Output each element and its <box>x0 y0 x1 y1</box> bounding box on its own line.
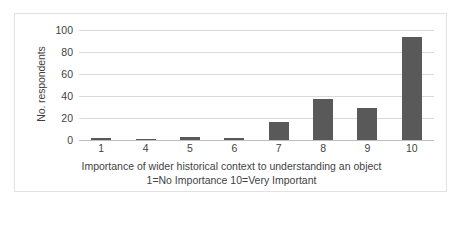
bar-group <box>79 30 434 140</box>
x-axis-title-line1: Importance of wider historical context t… <box>81 160 381 172</box>
bar-slot <box>390 30 434 140</box>
bar[interactable] <box>313 99 333 140</box>
plot-area: 100 80 60 40 20 0 <box>79 30 434 140</box>
bar[interactable] <box>402 37 422 140</box>
figure-container: No. respondents 100 80 60 40 20 0 <box>0 0 461 226</box>
bar-slot <box>168 30 212 140</box>
bar[interactable] <box>357 108 377 140</box>
x-tick-label: 8 <box>301 142 345 154</box>
bar-slot <box>257 30 301 140</box>
bar-slot <box>301 30 345 140</box>
figure-caption <box>0 207 461 215</box>
bar-slot <box>79 30 123 140</box>
x-tick-label: 7 <box>257 142 301 154</box>
x-tick-label: 9 <box>345 142 389 154</box>
x-axis-title: Importance of wider historical context t… <box>33 160 430 187</box>
axis-baseline <box>79 140 434 141</box>
y-tick-label-100: 100 <box>55 25 73 36</box>
bar-slot <box>123 30 167 140</box>
y-tick-label-0: 0 <box>67 135 73 146</box>
x-tick-label: 5 <box>168 142 212 154</box>
y-tick-label-80: 80 <box>61 47 73 58</box>
x-tick-label: 4 <box>123 142 167 154</box>
y-tick-label-20: 20 <box>61 113 73 124</box>
bar[interactable] <box>224 138 244 140</box>
x-tick-label: 10 <box>390 142 434 154</box>
bar[interactable] <box>180 137 200 140</box>
y-tick-label-40: 40 <box>61 91 73 102</box>
y-axis-title: No. respondents <box>35 14 47 154</box>
bar-slot <box>345 30 389 140</box>
chart-frame: No. respondents 100 80 60 40 20 0 <box>14 13 447 192</box>
x-axis-title-line2: 1=No Importance 10=Very Important <box>33 174 430 188</box>
x-tick-label: 6 <box>212 142 256 154</box>
x-axis-tick-labels: 1 4 5 6 7 8 9 10 <box>79 142 434 154</box>
bar[interactable] <box>136 139 156 140</box>
bar[interactable] <box>91 138 111 140</box>
bar[interactable] <box>269 122 289 140</box>
y-tick-label-60: 60 <box>61 69 73 80</box>
x-tick-label: 1 <box>79 142 123 154</box>
bar-slot <box>212 30 256 140</box>
